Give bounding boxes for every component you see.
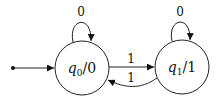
state-q0: q0/0 bbox=[55, 41, 109, 95]
transition-q1-q1: 0 bbox=[171, 5, 190, 41]
transition-q0-q1: 1 bbox=[109, 52, 154, 67]
transition-q1-q0: 1 bbox=[108, 71, 157, 87]
state-label: q1/1 bbox=[168, 59, 196, 77]
transition-label: 0 bbox=[176, 5, 184, 19]
initial-arrow bbox=[11, 66, 54, 70]
transition-label: 1 bbox=[127, 52, 135, 66]
transition-q0-q0: 0 bbox=[72, 5, 91, 42]
transition-label: 0 bbox=[77, 5, 85, 19]
state-label: q0/0 bbox=[68, 60, 96, 78]
state-diagram: 0 0 1 1 q0/0 q1/1 bbox=[0, 0, 221, 101]
state-q1: q1/1 bbox=[155, 40, 209, 94]
transition-label: 1 bbox=[127, 71, 135, 85]
